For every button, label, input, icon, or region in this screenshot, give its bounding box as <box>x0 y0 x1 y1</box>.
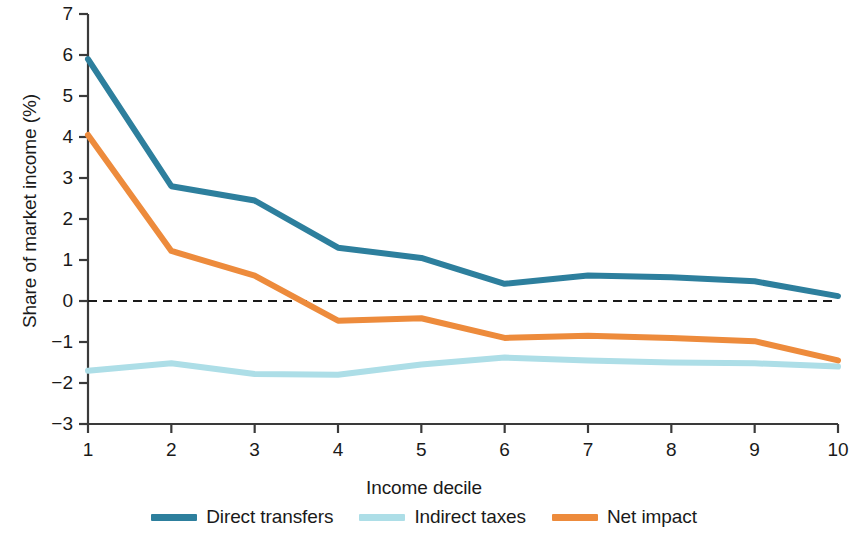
x-axis-tick-label: 3 <box>235 440 275 459</box>
plot-area <box>0 0 848 500</box>
legend-label: Indirect taxes <box>414 506 526 528</box>
legend-swatch-icon <box>151 514 197 521</box>
legend-label: Net impact <box>607 506 697 528</box>
x-axis-tick-label: 2 <box>151 440 191 459</box>
x-axis-tick-label: 1 <box>68 440 108 459</box>
y-axis-tick-label: 2 <box>0 209 73 228</box>
x-axis-tick-label: 8 <box>651 440 691 459</box>
y-axis-tick-label: 7 <box>0 4 73 23</box>
x-axis-tick-label: 5 <box>401 440 441 459</box>
x-axis-tick-label: 9 <box>735 440 775 459</box>
legend-label: Direct transfers <box>206 506 333 528</box>
legend-swatch-icon <box>359 514 405 521</box>
x-axis-tick-label: 7 <box>568 440 608 459</box>
legend-item: Direct transfers <box>151 506 333 528</box>
y-axis-tick-label: 4 <box>0 127 73 146</box>
y-axis-tick-label: 3 <box>0 168 73 187</box>
x-axis-tick-label: 6 <box>485 440 525 459</box>
legend-swatch-icon <box>552 514 598 521</box>
y-axis-tick-label: −3 <box>0 414 73 433</box>
x-axis-title: Income decile <box>0 477 848 499</box>
y-axis-tick-label: 5 <box>0 86 73 105</box>
series-line-indirect-taxes <box>88 358 838 375</box>
y-axis-tick-label: −2 <box>0 373 73 392</box>
series-line-net-impact <box>88 135 838 361</box>
legend-item: Net impact <box>552 506 697 528</box>
y-axis-tick-label: 1 <box>0 250 73 269</box>
chart-legend: Direct transfersIndirect taxesNet impact <box>0 506 848 528</box>
y-axis-tick-label: 0 <box>0 291 73 310</box>
x-axis-tick-label: 10 <box>818 440 853 459</box>
x-axis-tick-label: 4 <box>318 440 358 459</box>
y-axis-tick-label: 6 <box>0 45 73 64</box>
legend-item: Indirect taxes <box>359 506 526 528</box>
y-axis-tick-label: −1 <box>0 332 73 351</box>
